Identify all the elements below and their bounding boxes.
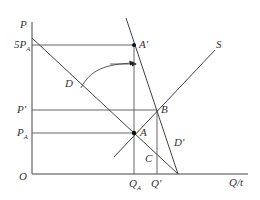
curves: [32, 18, 215, 174]
price-guides: [32, 45, 157, 133]
point-a-marker: [132, 131, 136, 135]
qa-label: QA: [129, 177, 141, 191]
quantity-labels: QA Q': [129, 177, 162, 191]
point-a-prime-label: A': [138, 38, 149, 50]
p-prime-label: P': [16, 103, 27, 115]
five-pa-label: 5PA: [14, 38, 30, 52]
supply-label: S: [216, 38, 222, 50]
pa-label: PA: [16, 126, 28, 140]
axis-labels: P Q/t O: [19, 18, 244, 188]
shift-arrow-curve: [81, 63, 134, 88]
point-a-prime-marker: [132, 43, 136, 47]
point-b-label: B: [161, 103, 168, 115]
y-axis-label: P: [19, 18, 27, 30]
demand-curve: [32, 38, 178, 174]
point-labels: A' A B C: [138, 38, 168, 164]
point-a-label: A: [139, 126, 147, 138]
origin-label: O: [19, 170, 27, 182]
demand-shifted-label: D': [173, 136, 185, 148]
demand-label: D: [64, 77, 73, 89]
point-c-label: C: [145, 152, 153, 164]
x-axis-label: Q/t: [229, 176, 244, 188]
price-labels: 5PA P' PA: [14, 38, 30, 140]
q-prime-label: Q': [151, 177, 162, 189]
supply-demand-diagram: P Q/t O 5PA P' PA QA Q' D D' S A' A B C: [0, 0, 260, 200]
